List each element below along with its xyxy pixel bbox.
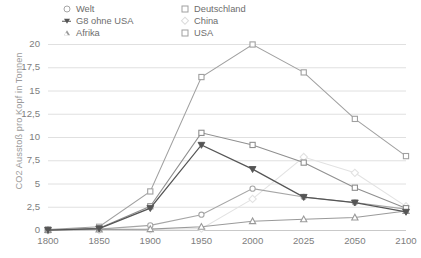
y-tick-label: 7,5	[6, 155, 40, 165]
x-tick-label: 2100	[383, 236, 421, 246]
data-point-marker	[249, 218, 255, 224]
data-point-marker	[198, 224, 204, 230]
x-tick-label: 2050	[332, 236, 378, 246]
data-point-marker	[301, 70, 306, 75]
data-point-marker	[199, 212, 204, 217]
series-china	[44, 153, 409, 234]
x-tick-label: 1850	[76, 236, 122, 246]
y-tick-label: 12,5	[6, 109, 40, 119]
y-tick-label: 10	[6, 132, 40, 142]
y-tick-label: 15	[6, 86, 40, 96]
data-point-marker	[250, 142, 255, 147]
data-point-marker	[403, 154, 408, 159]
data-point-marker	[301, 160, 306, 165]
data-point-marker	[250, 42, 255, 47]
data-point-marker	[250, 186, 255, 191]
y-tick-label: 0	[6, 225, 40, 235]
x-tick-label: 1800	[25, 236, 71, 246]
series-line	[48, 133, 406, 230]
data-point-marker	[351, 169, 358, 176]
x-tick-label: 2000	[230, 236, 276, 246]
data-point-marker	[199, 130, 204, 135]
data-point-marker	[301, 216, 307, 222]
y-tick-label: 2,5	[6, 202, 40, 212]
data-point-marker	[352, 116, 357, 121]
y-tick-label: 5	[6, 179, 40, 189]
x-tick-label: 1900	[127, 236, 173, 246]
x-tick-label: 1950	[178, 236, 224, 246]
data-point-marker	[352, 185, 357, 190]
y-tick-label: 20	[6, 39, 40, 49]
x-tick-label: 2025	[281, 236, 327, 246]
data-point-marker	[148, 189, 153, 194]
data-point-marker	[249, 167, 256, 173]
y-tick-label: 17,5	[6, 62, 40, 72]
data-point-marker	[352, 214, 358, 220]
data-point-marker	[199, 74, 204, 79]
